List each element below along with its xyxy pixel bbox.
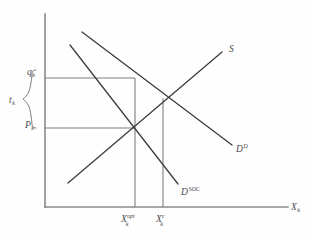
social-demand-curve xyxy=(70,45,178,184)
supply-demand-diagram: qk tk Pk S DD DSOC Xoptk Xck xyxy=(0,0,311,239)
q-k-price-label: qk xyxy=(27,67,35,78)
social-demand-curve-label: DSOC xyxy=(180,186,200,197)
x-axis-label: Xk xyxy=(290,202,300,213)
supply-curve-label: S xyxy=(229,44,234,54)
x-k-opt-quantity-label: Xoptk xyxy=(120,213,135,227)
private-demand-curve-label: DD xyxy=(235,143,248,154)
t-k-tax-label: tk xyxy=(9,95,15,106)
p-k-price-label: Pk xyxy=(24,120,34,131)
diagram-canvas: qk tk Pk S DD DSOC Xoptk Xck xyxy=(0,0,311,239)
x-k-c-quantity-label: Xck xyxy=(155,213,165,227)
